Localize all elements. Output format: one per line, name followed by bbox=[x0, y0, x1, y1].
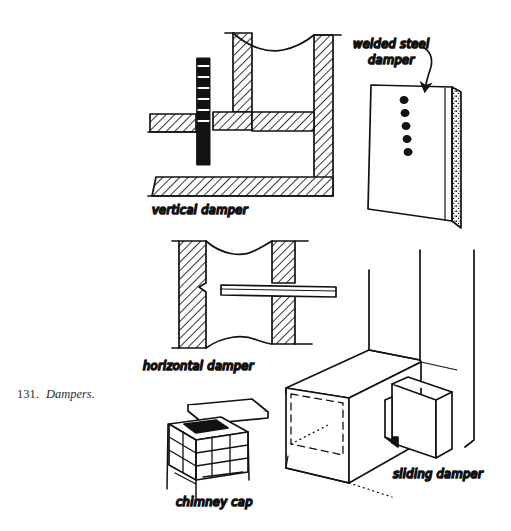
sliding-damper-label: sliding damper bbox=[393, 467, 484, 481]
horizontal-damper-label: horizontal damper bbox=[143, 359, 255, 373]
welded-steel-damper-label-line2: damper bbox=[368, 53, 415, 67]
welded-steel-damper-drawing: welded steel damper bbox=[353, 37, 461, 228]
figure-caption: 131.Dampers. bbox=[17, 387, 95, 402]
vertical-damper-label: vertical damper bbox=[152, 203, 249, 217]
chimney-cap-drawing: chimney cap bbox=[167, 399, 268, 509]
chimney-cap-label: chimney cap bbox=[176, 495, 253, 509]
welded-steel-damper-label-line1: welded steel bbox=[353, 37, 430, 51]
horizontal-damper-drawing: horizontal damper bbox=[143, 241, 336, 373]
dampers-figure-illustration: vertical damper bbox=[0, 0, 511, 531]
figure-caption-number: 131. bbox=[17, 387, 39, 401]
figure-caption-text: Dampers. bbox=[46, 387, 95, 401]
figure-page: vertical damper bbox=[0, 0, 511, 531]
vertical-damper-drawing: vertical damper bbox=[148, 33, 341, 217]
